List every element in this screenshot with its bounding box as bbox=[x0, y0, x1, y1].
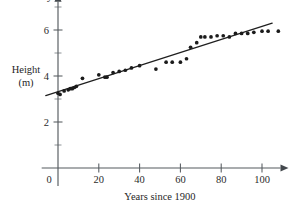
y-tick-label: 6 bbox=[44, 25, 49, 36]
data-point bbox=[62, 89, 66, 93]
x-tick-label: 20 bbox=[94, 174, 105, 185]
data-point bbox=[266, 29, 270, 33]
data-point bbox=[185, 57, 189, 61]
data-point bbox=[164, 60, 168, 64]
data-point bbox=[228, 35, 232, 39]
data-point bbox=[130, 66, 134, 70]
data-point bbox=[203, 35, 207, 39]
data-point bbox=[246, 32, 250, 36]
data-point bbox=[179, 60, 183, 64]
data-point bbox=[154, 67, 158, 71]
x-tick-label: 0 bbox=[46, 174, 51, 185]
data-point bbox=[260, 29, 264, 33]
y-axis-tick-labels: 246 bbox=[44, 25, 50, 128]
data-point bbox=[209, 35, 213, 39]
data-point bbox=[138, 64, 142, 68]
scatter-plot-figure: Height (m) 020406080100 246 x y Years si… bbox=[0, 0, 290, 205]
x-axis-arrow-icon bbox=[280, 164, 288, 171]
x-axis-caption: Years since 1900 bbox=[124, 191, 195, 202]
data-point bbox=[221, 34, 225, 38]
data-point bbox=[195, 41, 199, 45]
data-point bbox=[189, 45, 193, 49]
data-point bbox=[240, 32, 244, 36]
data-point bbox=[276, 29, 280, 33]
x-tick-label: 60 bbox=[175, 174, 186, 185]
y-tick-label: 2 bbox=[44, 117, 49, 128]
data-point bbox=[105, 75, 109, 79]
x-tick-label: 40 bbox=[134, 174, 145, 185]
data-point bbox=[252, 30, 256, 34]
y-tick-label: 4 bbox=[44, 71, 50, 82]
data-point bbox=[199, 35, 203, 39]
data-point bbox=[117, 70, 121, 74]
data-point bbox=[215, 34, 219, 38]
x-axis-tick-labels: 020406080100 bbox=[46, 174, 270, 185]
scatter-data-points bbox=[56, 29, 280, 96]
y-axis-symbol-label: y bbox=[47, 0, 53, 2]
data-point bbox=[58, 93, 62, 97]
data-point bbox=[234, 32, 238, 36]
y-axis-arrow-icon bbox=[54, 0, 61, 2]
data-point bbox=[81, 76, 85, 80]
x-tick-label: 80 bbox=[216, 174, 227, 185]
data-point bbox=[97, 73, 101, 77]
data-point bbox=[75, 85, 79, 89]
x-tick-label: 100 bbox=[254, 174, 270, 185]
plot-canvas: 020406080100 246 x y Years since 1900 bbox=[0, 0, 290, 205]
data-point bbox=[123, 68, 127, 72]
data-point bbox=[111, 71, 115, 75]
line-of-best-fit bbox=[46, 23, 272, 95]
data-point bbox=[170, 60, 174, 64]
